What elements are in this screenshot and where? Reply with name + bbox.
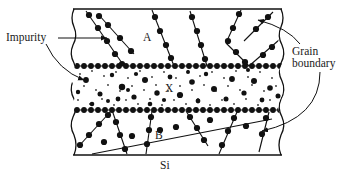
label-grain-boundary-line1: Grain (292, 45, 318, 57)
figure-container: Impurity Grain boundary A X B Si (0, 0, 345, 181)
label-grain-boundary: Grain boundary (292, 45, 335, 70)
label-region-a: A (143, 31, 151, 43)
region-a-grain-boundaries (86, 10, 279, 67)
label-region-b: B (155, 129, 163, 141)
x-interlayer (70, 63, 286, 113)
impurity-dots-region-b (77, 112, 269, 152)
region-b-grain-boundaries (77, 110, 272, 154)
label-grain-boundary-line2: boundary (292, 57, 335, 69)
label-substrate-si: Si (160, 159, 170, 171)
label-region-x: X (165, 82, 173, 94)
label-impurity: Impurity (6, 31, 46, 43)
